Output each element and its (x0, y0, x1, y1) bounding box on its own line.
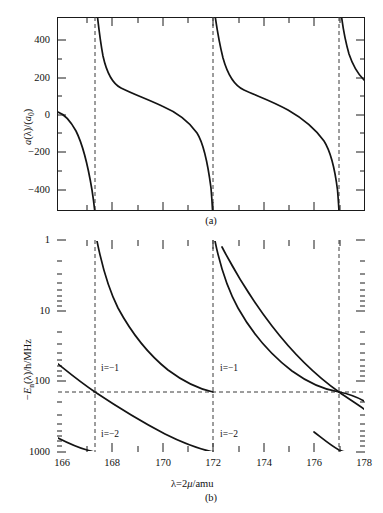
panel-a-resonance-dashed-lines (95, 17, 339, 211)
annotation-i-minus-1-right: i=−1 (220, 363, 238, 373)
panel-b-curves (58, 236, 364, 452)
panel-b-ylabel: −En(λ)/h/MHz (22, 339, 36, 400)
panel-a-y-ticks (57, 40, 365, 190)
curve-a-branch-1 (58, 112, 96, 220)
panel-b-xtick-166: 166 (42, 458, 82, 469)
panel-b-xlabel: λ=2μ/amu (171, 478, 214, 489)
panel-b-ytick-1000: 1000 (4, 447, 50, 458)
panel-b-xtick-170: 170 (143, 458, 183, 469)
panel-b-xtick-176: 176 (294, 458, 334, 469)
panel-a-curves (58, 8, 364, 220)
curve-b-lower-right (314, 432, 346, 452)
panel-b-y-ticks (57, 240, 365, 452)
curve-a-branch-2 (97, 8, 214, 220)
panel-a-plot (0, 0, 383, 513)
panel-a-ytick-neg400: −400 (4, 185, 50, 196)
panel-b-xtick-178: 178 (344, 458, 383, 469)
panel-b-ytick-1: 1 (4, 235, 50, 246)
curve-b-i3-lowerleft (58, 438, 95, 452)
annotation-i-minus-2-right: i=−2 (220, 429, 238, 439)
panel-b-ytick-10: 10 (4, 306, 50, 317)
curve-b-i1-branchB (214, 236, 364, 401)
curve-b-i2-right (222, 247, 364, 409)
panel-a-ytick-400: 400 (4, 35, 50, 46)
curve-a-branch-3 (214, 8, 340, 220)
annotation-i-minus-2-left: i=−2 (101, 429, 119, 439)
panel-b-xtick-168: 168 (92, 458, 132, 469)
panel-b-caption: (b) (191, 492, 231, 503)
panel-a-ylabel: a(λ)/(a0) (22, 109, 36, 145)
curve-a-branch-4 (341, 8, 365, 80)
figure-root: 400 200 0 −200 −400 a(λ)/(a0) (a) 1 10 1… (0, 0, 383, 513)
panel-a-ytick-200: 200 (4, 73, 50, 84)
panel-a-caption: (a) (191, 215, 231, 226)
curve-b-i2-branchA (58, 364, 213, 452)
annotation-i-minus-1-left: i=−1 (101, 363, 119, 373)
panel-a-ytick-neg200: −200 (4, 147, 50, 158)
panel-b-xtick-172: 172 (193, 458, 233, 469)
panel-b-xtick-174: 174 (244, 458, 284, 469)
